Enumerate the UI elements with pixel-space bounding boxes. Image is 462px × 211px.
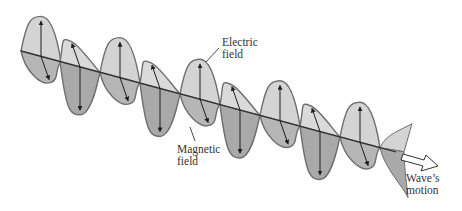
- magnetic-field-lobe: [380, 124, 412, 152]
- wave-motion-label-line2: motion: [406, 184, 440, 196]
- electric-field-label: Electric field: [222, 36, 258, 60]
- wave-motion-label-line1: Wave’s: [406, 172, 440, 184]
- magnetic-field-label: Magnetic field: [177, 143, 220, 167]
- magnetic-field-label-line1: Magnetic: [177, 143, 220, 155]
- electric-field-label-line1: Electric: [222, 36, 258, 48]
- electric-field-label-line2: field: [222, 48, 258, 60]
- electric-field-leader: [206, 48, 219, 62]
- magnetic-field-label-line2: field: [177, 155, 220, 167]
- wave-motion-label: Wave’s motion: [406, 172, 440, 196]
- magnetic-field-leader: [190, 127, 195, 141]
- wave-motion-arrow-icon: [401, 154, 438, 171]
- em-wave-diagram: [0, 0, 462, 211]
